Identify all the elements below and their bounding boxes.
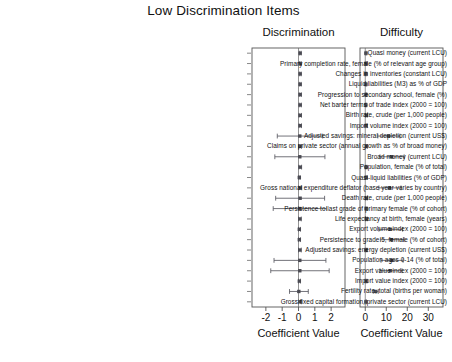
y-axis-category-label: Changes in inventories (constant LCU) [201, 70, 447, 78]
x-axis-tick-label: 1 [312, 312, 318, 323]
x-axis-tick-label: 30 [423, 312, 434, 323]
y-axis-category-label: Population, female (% of total) [201, 163, 447, 171]
y-axis-category-label: Export volume index (2000 = 100) [201, 225, 447, 233]
x-axis-tick-label: -2 [261, 312, 270, 323]
panel-title-discrimination: Discrimination [252, 26, 345, 38]
y-axis-category-label: Import volume index (2000 = 100) [201, 122, 447, 130]
y-axis-category-label: Gross fixed capital formation, private s… [201, 298, 447, 306]
y-axis-category-label: Adjusted savings: mineral depletion (cur… [201, 132, 447, 140]
panel-title-difficulty: Difficulty [360, 26, 443, 38]
y-axis-category-label: Birth rate, crude (per 1,000 people) [201, 111, 447, 119]
y-axis-category-label: Life expectancy at birth, female (years) [201, 215, 447, 223]
y-axis-category-label: Quasi-liquid liabilities (% of GDP) [201, 174, 447, 182]
y-axis-category-label: Population ages 0-14 (% of total) [201, 256, 447, 264]
y-axis-category-label: Persistence to grade 5, female (% of coh… [201, 236, 447, 244]
y-axis-category-label: Primary completion rate, female (% of re… [201, 60, 447, 68]
y-axis-category-label: Death rate, crude (per 1,000 people) [201, 194, 447, 202]
y-axis-category-label: Quasi money (current LCU) [201, 49, 447, 57]
y-axis-category-label: Claims on private sector (annual growth … [201, 142, 447, 150]
x-axis-tick-label: 2 [328, 312, 334, 323]
x-axis-tick-label: 20 [402, 312, 413, 323]
y-axis-category-label: Net barter terms of trade index (2000 = … [201, 101, 447, 109]
y-axis-category-label: Persistence to last grade of primary fem… [201, 205, 447, 213]
y-axis-category-label: Broad money (current LCU) [201, 153, 447, 161]
y-axis-category-label: Progression to secondary school, female … [201, 91, 447, 99]
y-axis-category-label: Adjusted savings: energy depletion (curr… [201, 246, 447, 254]
y-axis-category-label: Liquid liabilities (M3) as % of GDP [201, 80, 447, 88]
y-axis-category-label: Import value index (2000 = 100) [201, 277, 447, 285]
y-axis-category-label: Export value index (2000 = 100) [201, 267, 447, 275]
figure-title: Low Discrimination Items [0, 3, 447, 18]
x-axis-title-difficulty: Coefficient Value [348, 327, 452, 339]
x-axis-tick-label: 0 [362, 312, 368, 323]
x-axis-tick-label: -1 [278, 312, 287, 323]
x-axis-title-discrimination: Coefficient Value [240, 327, 357, 339]
y-axis-category-label: Gross national expenditure deflator (bas… [201, 184, 447, 192]
x-axis-tick-label: 10 [381, 312, 392, 323]
y-axis-category-label: Fertility rate, total (births per woman) [201, 287, 447, 295]
x-axis-tick-label: 0 [296, 312, 302, 323]
